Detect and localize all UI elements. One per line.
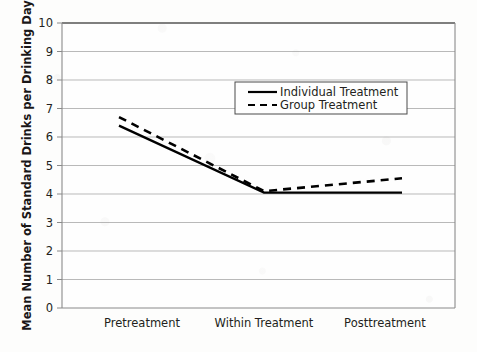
x-tick-label-within-treatment: Within Treatment (215, 316, 314, 330)
y-tick-label: 4 (46, 187, 53, 201)
chart-figure: 10 9 8 7 6 5 4 3 2 1 0 Mean Number of St… (0, 0, 477, 352)
legend-label-individual-treatment: Individual Treatment (280, 85, 399, 99)
y-tick-label: 7 (46, 102, 53, 116)
chart-legend: Individual Treatment Group Treatment (235, 82, 407, 114)
x-tick-label-posttreatment: Posttreatment (344, 316, 426, 330)
legend-label-group-treatment: Group Treatment (280, 98, 378, 112)
y-tick-label: 8 (46, 73, 53, 87)
y-axis-title: Mean Number of Standard Drinks per Drink… (20, 0, 34, 331)
y-tick-label: 5 (46, 159, 53, 173)
y-axis-tick-labels: 10 9 8 7 6 5 4 3 2 1 0 (38, 16, 53, 315)
y-tick-label: 1 (46, 273, 53, 287)
x-tick-label-pretreatment: Pretreatment (104, 316, 180, 330)
y-tick-label: 6 (46, 130, 53, 144)
y-tick-label: 9 (46, 45, 53, 59)
y-tick-label: 10 (38, 16, 53, 30)
y-tick-label: 3 (46, 216, 53, 230)
y-tick-marks (57, 23, 62, 308)
line-chart-canvas: 10 9 8 7 6 5 4 3 2 1 0 Mean Number of St… (0, 0, 477, 352)
y-tick-label: 2 (46, 244, 53, 258)
y-tick-label: 0 (46, 301, 53, 315)
x-axis-category-labels: Pretreatment Within Treatment Posttreatm… (104, 316, 426, 330)
